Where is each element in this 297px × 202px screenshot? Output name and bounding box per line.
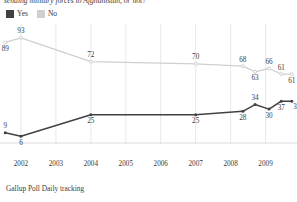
value-label-no-6: 66 xyxy=(265,58,273,66)
value-label-yes-1: 6 xyxy=(19,139,23,147)
data-point-no-3[interactable] xyxy=(194,62,197,65)
x-tick-2003: 2003 xyxy=(49,160,63,168)
value-label-yes-4: 28 xyxy=(239,114,247,122)
x-tick-2005: 2005 xyxy=(119,160,133,168)
chart-legend: Yes No xyxy=(6,9,57,18)
value-label-yes-2: 25 xyxy=(87,117,95,125)
x-tick-2004: 2004 xyxy=(84,160,98,168)
value-label-yes-6: 30 xyxy=(265,112,273,120)
x-tick-2006: 2006 xyxy=(154,160,168,168)
value-label-no-7: 61 xyxy=(278,64,286,72)
data-point-no-6[interactable] xyxy=(268,67,271,70)
legend-item-no[interactable]: No xyxy=(37,9,57,18)
value-label-yes-last: 37 xyxy=(293,103,297,111)
data-point-yes-4[interactable] xyxy=(241,110,244,113)
value-label-no-0: 89 xyxy=(2,45,10,53)
data-point-yes-0[interactable] xyxy=(4,131,7,134)
legend-label-yes: Yes xyxy=(17,9,28,18)
x-tick-2002: 2002 xyxy=(14,160,28,168)
x-tick-2009: 2009 xyxy=(258,160,272,168)
data-point-no-5[interactable] xyxy=(254,70,257,73)
value-label-yes-7: 37 xyxy=(278,104,286,112)
legend-swatch-yes xyxy=(6,10,14,18)
legend-swatch-no xyxy=(37,10,45,18)
data-point-yes-2[interactable] xyxy=(89,113,92,116)
data-point-no-1[interactable] xyxy=(19,36,22,39)
data-point-no-4[interactable] xyxy=(241,65,244,68)
legend-item-yes[interactable]: Yes xyxy=(6,9,28,18)
data-point-no-8[interactable] xyxy=(290,73,293,76)
data-point-yes-5[interactable] xyxy=(254,103,257,106)
plot-area: 8993727068636661619625252834303737 xyxy=(0,24,297,157)
value-label-no-1: 93 xyxy=(17,27,25,35)
x-axis-labels: 20022003200420052006200720082009 xyxy=(0,160,297,172)
x-tick-2007: 2007 xyxy=(188,160,202,168)
x-tick-2008: 2008 xyxy=(223,160,237,168)
chart-page: sending military forces to Afghanistan, … xyxy=(0,0,297,202)
data-point-yes-3[interactable] xyxy=(194,113,197,116)
chart-title: sending military forces to Afghanistan, … xyxy=(4,0,294,5)
value-label-no-2: 72 xyxy=(87,51,95,59)
value-label-no-5: 63 xyxy=(251,74,259,82)
line-chart-svg: 8993727068636661619625252834303737 xyxy=(0,24,297,157)
source-note: Gallup Poll Daily tracking xyxy=(6,184,84,193)
data-point-yes-7[interactable] xyxy=(280,100,283,103)
data-point-yes-1[interactable] xyxy=(19,135,22,138)
value-label-yes-3: 25 xyxy=(192,117,200,125)
series-line-yes xyxy=(5,101,292,136)
value-label-yes-5: 34 xyxy=(251,94,259,102)
value-label-no-3: 70 xyxy=(192,53,200,61)
value-label-no-4: 68 xyxy=(239,56,247,64)
data-point-no-2[interactable] xyxy=(89,60,92,63)
value-label-no-8: 61 xyxy=(288,77,296,85)
legend-label-no: No xyxy=(48,9,57,18)
data-point-no-7[interactable] xyxy=(280,73,283,76)
data-point-yes-6[interactable] xyxy=(268,108,271,111)
data-point-no-0[interactable] xyxy=(4,41,7,44)
series-line-no xyxy=(5,38,292,74)
value-label-yes-0: 9 xyxy=(3,122,7,130)
